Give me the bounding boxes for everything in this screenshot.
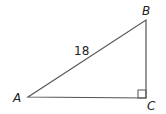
triangle-diagram: A B C 18 [0, 0, 166, 114]
triangle-abc [28, 20, 146, 98]
vertex-label-c: C [147, 99, 156, 113]
side-length-ab: 18 [74, 44, 89, 58]
vertex-label-a: A [12, 91, 21, 105]
right-angle-marker [138, 90, 146, 98]
vertex-label-b: B [142, 4, 150, 18]
